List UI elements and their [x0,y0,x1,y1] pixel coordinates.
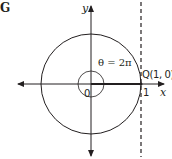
point-q [140,83,143,86]
angle-label: θ = 2π [98,58,132,68]
origin-label: 0 [84,89,90,99]
figure-label: G [0,2,10,14]
y-axis-label: y [82,3,88,14]
x-axis-label: x [160,87,166,98]
tick-label-1: 1 [143,88,149,98]
point-q-label: Q(1, 0) [142,70,172,80]
